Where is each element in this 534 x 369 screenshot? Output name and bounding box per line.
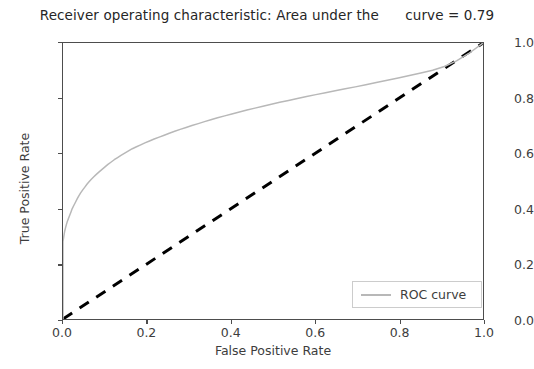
x-tick-label: 0.6: [285, 325, 345, 340]
chance-diagonal-line: [63, 43, 483, 319]
y-tick-mark: [58, 98, 62, 99]
legend-swatch-roc-curve: [361, 294, 391, 296]
x-tick-mark: [400, 320, 401, 324]
y-tick-mark: [58, 209, 62, 210]
x-tick-mark: [146, 320, 147, 324]
y-tick-label: 0.6: [490, 146, 534, 161]
x-tick-mark: [315, 320, 316, 324]
y-tick-mark: [58, 42, 62, 43]
chart-title: Receiver operating characteristic: Area …: [0, 7, 534, 23]
y-tick-label: 0.4: [490, 201, 534, 216]
x-tick-label: 0.2: [116, 325, 176, 340]
plot-area: [62, 42, 484, 320]
x-axis-label: False Positive Rate: [62, 343, 484, 358]
legend-item-roc-curve: ROC curve: [353, 282, 481, 307]
x-tick-label: 1.0: [454, 325, 514, 340]
x-tick-mark: [231, 320, 232, 324]
x-tick-mark: [484, 320, 485, 324]
y-tick-mark: [58, 153, 62, 154]
legend-label-roc-curve: ROC curve: [400, 287, 466, 302]
y-tick-mark: [58, 264, 62, 265]
plot-svg: [63, 43, 483, 319]
y-tick-label: 1.0: [490, 35, 534, 50]
y-axis-label: True Positive Rate: [17, 109, 32, 269]
y-tick-label: 0.8: [490, 90, 534, 105]
x-tick-mark: [62, 320, 63, 324]
x-tick-label: 0.4: [201, 325, 261, 340]
x-tick-label: 0.8: [370, 325, 430, 340]
y-tick-label: 0.2: [490, 257, 534, 272]
x-tick-label: 0.0: [32, 325, 92, 340]
legend: ROC curve: [352, 281, 482, 308]
roc-chart-figure: Receiver operating characteristic: Area …: [0, 0, 534, 369]
